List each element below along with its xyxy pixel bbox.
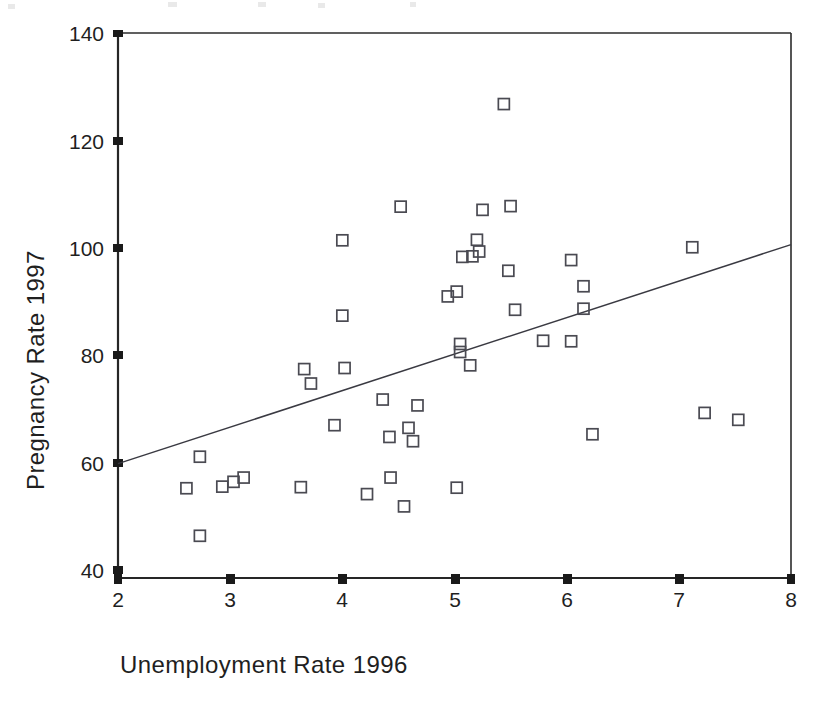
x-tick-label: 6	[561, 588, 573, 611]
data-point-marker	[471, 234, 482, 245]
x-tick-label: 3	[224, 588, 236, 611]
chart-canvas: 140 120 100 80 60 40 2 3 4 5 6 7 8	[0, 0, 830, 706]
scatter-plot-figure: 140 120 100 80 60 40 2 3 4 5 6 7 8	[0, 0, 830, 706]
scan-artifacts	[8, 2, 416, 9]
data-point-marker	[395, 201, 406, 212]
data-point-marker	[295, 482, 306, 493]
y-tick-label: 140	[69, 22, 104, 45]
data-point-marker	[403, 422, 414, 433]
data-point-marker	[329, 420, 340, 431]
data-point-marker	[399, 501, 410, 512]
data-point-marker	[337, 235, 348, 246]
data-point-marker	[451, 482, 462, 493]
data-point-marker	[699, 407, 710, 418]
x-tick-label: 4	[336, 588, 348, 611]
data-point-marker	[194, 530, 205, 541]
data-point-marker	[408, 436, 419, 447]
data-point-marker	[566, 255, 577, 266]
y-axis-title: Pregnancy Rate 1997	[22, 250, 49, 490]
data-point-marker	[299, 364, 310, 375]
data-point-marker	[477, 204, 488, 215]
y-tick-label: 40	[81, 559, 104, 582]
data-point-marker	[687, 242, 698, 253]
data-point-marker	[339, 363, 350, 374]
data-point-marker	[362, 489, 373, 500]
x-tick-label: 7	[673, 588, 685, 611]
data-point-marker	[566, 336, 577, 347]
data-point-marker	[384, 431, 395, 442]
plot-frame	[118, 33, 791, 578]
y-tick-label: 80	[81, 344, 104, 367]
data-point-marker	[305, 378, 316, 389]
y-tick-label: 100	[69, 237, 104, 260]
data-point-marker	[377, 394, 388, 405]
data-point-marker	[503, 265, 514, 276]
x-tick-label: 8	[785, 588, 797, 611]
data-point-marker	[505, 201, 516, 212]
data-point-marker	[733, 414, 744, 425]
data-point-marker	[337, 310, 348, 321]
data-point-marker	[498, 99, 509, 110]
data-point-marker	[538, 335, 549, 346]
y-tick-label: 60	[81, 452, 104, 475]
data-point-marker	[181, 483, 192, 494]
x-axis-tick-labels: 2 3 4 5 6 7 8	[112, 588, 797, 611]
y-tick-label: 120	[69, 130, 104, 153]
data-point-markers	[181, 99, 744, 542]
data-point-marker	[412, 400, 423, 411]
data-point-marker	[385, 472, 396, 483]
y-axis-tick-labels: 140 120 100 80 60 40	[69, 22, 104, 582]
x-tick-label: 2	[112, 588, 124, 611]
data-point-marker	[587, 429, 598, 440]
data-point-marker	[465, 360, 476, 371]
data-point-marker	[194, 451, 205, 462]
data-point-marker	[217, 481, 228, 492]
data-point-marker	[578, 281, 589, 292]
x-tick-label: 5	[449, 588, 461, 611]
data-point-marker	[455, 338, 466, 349]
x-axis-title: Unemployment Rate 1996	[120, 651, 408, 678]
data-point-marker	[510, 304, 521, 315]
